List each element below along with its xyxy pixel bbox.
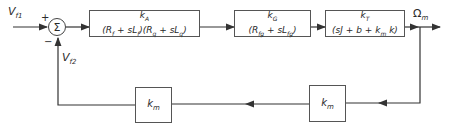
generator-block: kG (Rfg + sLfg) — [234, 10, 311, 37]
amplifier-block: kA (Rf + sLf)(Rq + sLq) — [89, 10, 200, 37]
block-denominator: (Rf + sLf)(Rq + sLq) — [102, 24, 186, 37]
sigma-icon: Σ — [54, 21, 61, 34]
input-signal-vf2-label: Vf2 — [62, 52, 76, 66]
motor-block: kT (sJ + b + km k) — [325, 10, 405, 37]
plus-sign: + — [41, 13, 49, 23]
block-denominator: (sJ + b + km k) — [332, 24, 398, 37]
output-signal-omega-label: Ωm — [413, 8, 428, 22]
gain-label: km — [321, 97, 334, 111]
minus-sign: − — [44, 37, 52, 47]
block-numerator: kT — [361, 11, 370, 24]
block-numerator: kA — [140, 11, 149, 24]
feedback-gain-block-left: km — [135, 87, 172, 123]
block-numerator: kG — [268, 11, 278, 24]
feedback-gain-block-right: km — [309, 85, 346, 122]
gain-label: km — [147, 98, 160, 112]
block-denominator: (Rfg + sLfg) — [248, 24, 296, 37]
input-signal-vf1-label: Vf1 — [8, 6, 22, 20]
summing-junction: Σ — [48, 18, 66, 36]
